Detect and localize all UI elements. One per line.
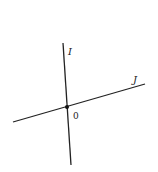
origin-point xyxy=(65,105,69,109)
label-j: J xyxy=(131,74,138,85)
axes-diagram: I J 0 xyxy=(0,0,158,172)
line-i xyxy=(63,43,71,165)
label-origin: 0 xyxy=(73,111,79,121)
label-i: I xyxy=(67,46,73,57)
line-j xyxy=(13,84,145,122)
